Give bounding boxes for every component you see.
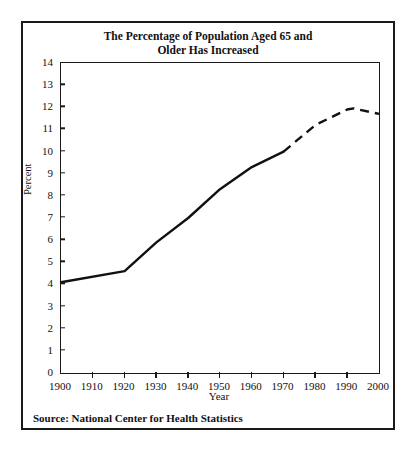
y-tick-label: 0: [29, 366, 53, 378]
chart-title-line-1: The Percentage of Population Aged 65 and: [40, 30, 376, 44]
y-tick-mark: [60, 106, 65, 107]
chart-title: The Percentage of Population Aged 65 and…: [40, 30, 376, 57]
source-note: Source: National Center for Health Stati…: [33, 412, 243, 424]
y-tick-mark: [60, 83, 65, 84]
x-tick-label: 2000: [356, 380, 400, 392]
y-tick-mark: [60, 172, 65, 173]
y-tick-label: 3: [29, 300, 53, 312]
y-tick-label: 5: [29, 255, 53, 267]
chart-title-line-2: Older Has Increased: [40, 44, 376, 58]
y-tick-label: 1: [29, 344, 53, 356]
y-tick-label: 2: [29, 322, 53, 334]
x-tick-mark: [155, 372, 156, 378]
y-tick-label: 7: [29, 211, 53, 223]
y-tick-label: 6: [29, 233, 53, 245]
x-tick-mark: [314, 372, 315, 378]
y-tick-label: 9: [29, 167, 53, 179]
x-tick-mark: [346, 372, 347, 378]
y-tick-mark: [60, 283, 65, 284]
x-tick-mark: [187, 372, 188, 378]
y-tick-label: 13: [29, 78, 53, 90]
y-tick-label: 10: [29, 145, 53, 157]
x-tick-mark: [251, 372, 252, 378]
data-series-layer: [61, 63, 379, 373]
y-tick-label: 8: [29, 189, 53, 201]
data-line-projected: [284, 108, 379, 151]
y-tick-mark: [60, 305, 65, 306]
x-tick-mark: [124, 372, 125, 378]
y-tick-mark: [60, 261, 65, 262]
x-tick-mark: [283, 372, 284, 378]
y-tick-mark: [60, 128, 65, 129]
y-tick-label: 11: [29, 122, 53, 134]
y-tick-mark: [60, 216, 65, 217]
y-tick-mark: [60, 238, 65, 239]
y-tick-mark: [60, 150, 65, 151]
x-tick-mark: [219, 372, 220, 378]
y-tick-mark: [60, 327, 65, 328]
chart-page: The Percentage of Population Aged 65 and…: [0, 0, 417, 452]
y-tick-label: 4: [29, 277, 53, 289]
y-tick-label: 14: [29, 56, 53, 68]
plot-area: [60, 62, 380, 374]
y-tick-mark: [60, 349, 65, 350]
y-tick-label: 12: [29, 100, 53, 112]
x-tick-mark: [92, 372, 93, 378]
y-tick-mark: [60, 194, 65, 195]
data-line-historical: [61, 152, 284, 283]
